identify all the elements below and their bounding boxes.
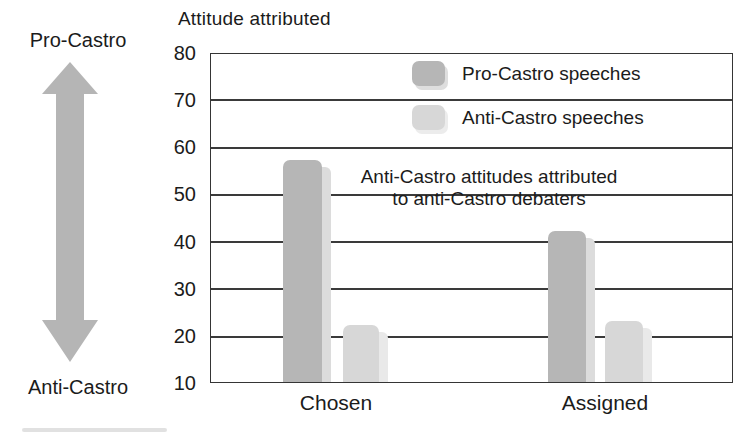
legend-item-anti-castro: Anti-Castro speeches [412,105,644,130]
annotation-line-1: Anti-Castro attitudes attributed [332,166,646,188]
gridline-70 [211,99,732,101]
bar-fill [605,321,643,382]
bar-fill [548,231,586,382]
chart-title: Attitude attributed [178,8,331,30]
bar-fill [283,160,322,382]
legend-swatch-pro-castro-icon [412,61,445,86]
bar-shadow [378,332,388,382]
legend-swatch-anti-castro-icon [412,105,445,130]
legend-label: Pro-Castro speeches [462,61,640,86]
plot-area [210,53,733,383]
y-tick-60: 60 [148,135,196,159]
scale-label-pro-castro: Pro-Castro [8,29,148,52]
y-tick-10: 10 [148,371,196,395]
annotation-text: Anti-Castro attitudes attributed to anti… [332,166,646,210]
annotation-line-2: to anti-Castro debaters [332,188,646,210]
y-tick-30: 30 [148,277,196,301]
legend-label: Anti-Castro speeches [462,105,644,130]
bar-chosen-anti-castro [343,325,379,382]
x-label-chosen: Chosen [266,391,406,415]
cropped-caption-artifact [22,428,167,432]
legend-item-pro-castro: Pro-Castro speeches [412,61,640,86]
y-tick-70: 70 [148,88,196,112]
double-headed-arrow-icon [42,62,98,362]
bar-chosen-pro-castro [283,160,322,382]
scale-label-anti-castro: Anti-Castro [8,376,148,399]
y-tick-50: 50 [148,182,196,206]
bar-shadow [321,167,331,382]
gridline-60 [211,147,732,149]
y-tick-40: 40 [148,230,196,254]
y-tick-80: 80 [148,41,196,65]
figure-attitude-attribution-chart: Attitude attributed Pro-Castro Anti-Cast… [0,0,749,432]
bar-shadow [642,328,652,382]
bar-assigned-anti-castro [605,321,643,382]
y-tick-20: 20 [148,324,196,348]
bar-assigned-pro-castro [548,231,586,382]
bar-shadow [585,238,595,382]
bar-fill [343,325,379,382]
x-label-assigned: Assigned [535,391,675,415]
